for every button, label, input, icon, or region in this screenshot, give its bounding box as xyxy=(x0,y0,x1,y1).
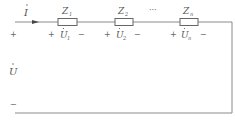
impedance-zn xyxy=(180,19,198,26)
ellipsis: ··· xyxy=(149,6,157,15)
source-plus: + xyxy=(10,30,17,39)
svg-text:−: − xyxy=(134,30,141,39)
source-voltage-label: U xyxy=(9,63,18,77)
svg-text:1: 1 xyxy=(69,11,72,17)
svg-text:+: + xyxy=(170,30,177,39)
source-minus: − xyxy=(10,100,17,109)
zn-label: Z n xyxy=(182,6,193,17)
circuit-diagram: I Z 1 Z 2 Z n ··· + U 1 − + U 2 − + U n … xyxy=(0,0,235,121)
svg-text:+: + xyxy=(104,30,111,39)
svg-text:−: − xyxy=(200,30,207,39)
svg-text:Z: Z xyxy=(61,6,69,16)
svg-text:1: 1 xyxy=(67,35,70,41)
svg-text:2: 2 xyxy=(124,11,128,17)
svg-text:n: n xyxy=(190,11,193,17)
svg-text:+: + xyxy=(48,30,55,39)
impedance-z1 xyxy=(58,19,77,26)
svg-text:Z: Z xyxy=(117,6,125,16)
svg-text:U: U xyxy=(9,66,18,77)
current-arrow-icon xyxy=(32,20,39,24)
svg-text:I: I xyxy=(23,7,29,18)
z2-label: Z 2 xyxy=(117,6,128,17)
z1-label: Z 1 xyxy=(61,6,72,17)
svg-text:Z: Z xyxy=(182,6,190,16)
impedance-z2 xyxy=(115,19,133,26)
svg-text:2: 2 xyxy=(122,35,126,41)
u1-voltage: + U 1 − xyxy=(48,28,85,41)
current-label: I xyxy=(23,4,29,18)
svg-text:−: − xyxy=(78,30,85,39)
svg-text:n: n xyxy=(188,35,191,41)
un-voltage: + U n − xyxy=(170,28,207,41)
u2-voltage: + U 2 − xyxy=(104,28,141,41)
